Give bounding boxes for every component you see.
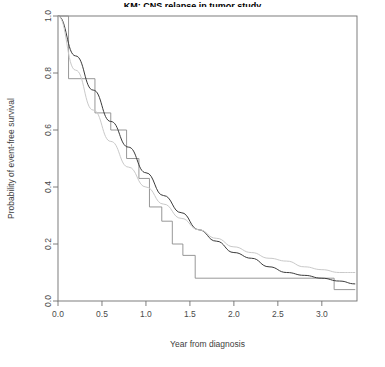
x-axis-tick-labels: 0.00.51.01.52.02.53.0 <box>52 309 328 319</box>
y-tick-label: 0.4 <box>43 181 53 193</box>
y-axis-tick-labels: 0.00.20.40.60.81.0 <box>43 10 53 307</box>
y-tick-label: 1.0 <box>43 10 53 22</box>
y-tick-label: 0.8 <box>43 67 53 79</box>
x-axis-title: Year from diagnosis <box>170 339 245 349</box>
chart-title-clipped: KM: CNS relapse in tumor study <box>0 0 385 7</box>
y-axis-title: Probability of event-free survival <box>6 98 16 219</box>
y-tick-label: 0.0 <box>43 295 53 307</box>
x-tick-label: 2.5 <box>272 309 284 319</box>
x-tick-label: 0.5 <box>96 309 108 319</box>
plot-frame <box>58 16 357 301</box>
series-line <box>58 16 355 284</box>
y-tick-label: 0.2 <box>43 238 53 250</box>
x-tick-label: 3.0 <box>316 309 328 319</box>
data-series <box>58 16 355 290</box>
x-axis-ticks <box>58 301 322 306</box>
chart-title: KM: CNS relapse in tumor study <box>124 1 262 7</box>
x-tick-label: 1.0 <box>140 309 152 319</box>
plot-area: 0.00.51.01.52.02.53.0 0.00.20.40.60.81.0… <box>0 0 385 367</box>
y-tick-label: 0.6 <box>43 124 53 136</box>
x-tick-label: 0.0 <box>52 309 64 319</box>
x-tick-label: 1.5 <box>184 309 196 319</box>
series-step <box>58 16 355 290</box>
survival-chart: KM: CNS relapse in tumor study 0.00.51.0… <box>0 0 385 367</box>
x-tick-label: 2.0 <box>228 309 240 319</box>
y-axis-ticks <box>53 16 58 301</box>
